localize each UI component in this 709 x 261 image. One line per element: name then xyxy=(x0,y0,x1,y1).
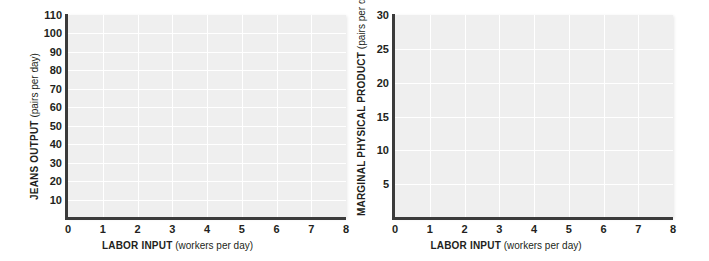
x-tick-label: 8 xyxy=(670,224,676,235)
y-tick-label: 10 xyxy=(50,194,62,205)
y-tick-label: 25 xyxy=(377,43,389,54)
y-axis-line xyxy=(65,14,68,220)
plot-area-wrapper-left xyxy=(68,15,346,218)
y-tick-label: 10 xyxy=(377,145,389,156)
y-axis-title-bold: MARGINAL PHYSICAL PRODUCT xyxy=(356,52,367,216)
y-tick-label: 90 xyxy=(50,46,62,57)
x-tick-label: 3 xyxy=(169,224,175,235)
x-tick-label: 1 xyxy=(427,224,433,235)
y-tick-label: 5 xyxy=(383,179,389,190)
gridline-v xyxy=(638,15,639,218)
x-tick-label: 6 xyxy=(273,224,279,235)
gridline-v xyxy=(242,15,243,218)
gridline-v xyxy=(311,15,312,218)
x-axis-title-bold: LABOR INPUT xyxy=(102,240,173,251)
y-axis-title-units: (pairs per day) xyxy=(29,53,40,120)
y-axis-title-units: (pairs per day) xyxy=(356,0,367,52)
x-tick-label: 2 xyxy=(461,224,467,235)
x-tick-label: 0 xyxy=(392,224,398,235)
gridline-v xyxy=(103,15,104,218)
gridline-v xyxy=(569,15,570,218)
x-tick-label: 4 xyxy=(531,224,537,235)
x-axis-title-bold: LABOR INPUT xyxy=(430,240,501,251)
y-tick-label: 30 xyxy=(377,10,389,21)
plot-area-wrapper-right xyxy=(395,15,673,218)
x-axis-title: LABOR INPUT (workers per day) xyxy=(0,240,355,251)
figure-container: 110 100 90 80 70 60 50 40 30 20 10 0 1 2… xyxy=(0,0,709,261)
y-tick-label: 50 xyxy=(50,120,62,131)
gridline-v xyxy=(604,15,605,218)
y-axis-title: JEANS OUTPUT (pairs per day) xyxy=(30,53,40,200)
plot-area-left xyxy=(68,15,346,218)
y-tick-label: 110 xyxy=(44,10,62,21)
x-tick-label: 5 xyxy=(566,224,572,235)
chart-marginal-physical-product: 30 25 20 15 10 5 0 1 2 3 4 5 6 7 8 LABOR… xyxy=(355,0,709,261)
y-tick-label: 100 xyxy=(44,28,62,39)
x-tick-label: 3 xyxy=(496,224,502,235)
y-axis-title: MARGINAL PHYSICAL PRODUCT (pairs per day… xyxy=(357,0,367,216)
gridline-v xyxy=(430,15,431,218)
y-tick-label: 15 xyxy=(377,111,389,122)
x-axis-title-units: (workers per day) xyxy=(172,240,253,251)
y-tick-label: 40 xyxy=(50,139,62,150)
gridline-v xyxy=(277,15,278,218)
y-tick-label: 80 xyxy=(50,65,62,76)
y-axis-title-bold: JEANS OUTPUT xyxy=(29,120,40,200)
plot-area-right xyxy=(395,15,673,218)
x-tick-label: 8 xyxy=(343,224,349,235)
y-tick-label: 20 xyxy=(50,176,62,187)
gridline-v xyxy=(172,15,173,218)
x-tick-label: 4 xyxy=(204,224,210,235)
x-tick-label: 6 xyxy=(600,224,606,235)
x-tick-label: 0 xyxy=(65,224,71,235)
x-axis-line xyxy=(392,217,673,220)
gridline-v xyxy=(138,15,139,218)
chart-jeans-output: 110 100 90 80 70 60 50 40 30 20 10 0 1 2… xyxy=(0,0,355,261)
gridline-v xyxy=(499,15,500,218)
x-axis-line xyxy=(65,217,346,220)
x-tick-label: 7 xyxy=(635,224,641,235)
x-tick-label: 1 xyxy=(100,224,106,235)
y-tick-label: 30 xyxy=(50,157,62,168)
y-tick-label: 70 xyxy=(50,83,62,94)
gridline-v xyxy=(207,15,208,218)
gridline-v xyxy=(465,15,466,218)
x-axis-title: LABOR INPUT (workers per day) xyxy=(329,240,683,251)
x-tick-label: 7 xyxy=(308,224,314,235)
y-tick-label: 60 xyxy=(50,102,62,113)
x-tick-label: 2 xyxy=(134,224,140,235)
x-axis-title-units: (workers per day) xyxy=(501,240,582,251)
gridline-v xyxy=(534,15,535,218)
x-tick-label: 5 xyxy=(239,224,245,235)
y-tick-label: 20 xyxy=(377,77,389,88)
y-axis-line xyxy=(392,14,395,220)
